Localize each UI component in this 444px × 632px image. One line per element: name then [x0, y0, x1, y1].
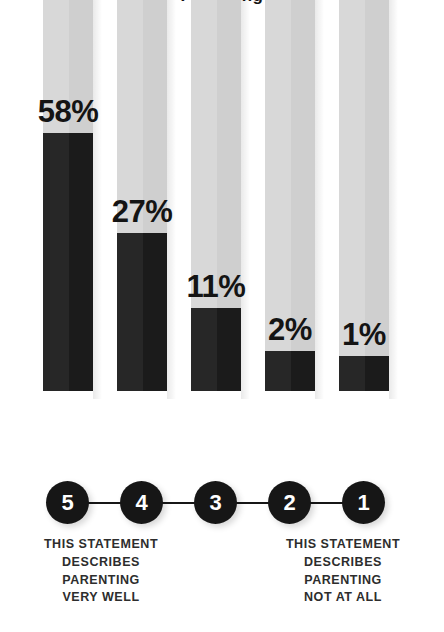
bar-value-label-1: 1%: [325, 319, 403, 350]
caption-left-line-2: DESCRIBES: [6, 554, 196, 572]
caption-right-line-3: PARENTING: [248, 572, 438, 590]
category-chip-4[interactable]: 4: [120, 481, 163, 524]
caption-right-line-4: NOT AT ALL: [248, 589, 438, 607]
caption-right-line-2: DESCRIBES: [248, 554, 438, 572]
bar-fill-4[interactable]: [117, 233, 167, 391]
category-chip-5[interactable]: 5: [46, 481, 89, 524]
plot-area: 58% 27% 11% 2% 1% 5 4 3 2: [0, 0, 444, 520]
axis-caption-right: THIS STATEMENT DESCRIBES PARENTING NOT A…: [248, 536, 438, 607]
caption-right-line-1: THIS STATEMENT: [248, 536, 438, 554]
bar-fill-3[interactable]: [191, 308, 241, 391]
caption-left-line-1: THIS STATEMENT: [6, 536, 196, 554]
bar-value-label-4: 27%: [103, 196, 181, 227]
bar-value-label-3: 11%: [177, 271, 255, 302]
bar-value-label-2: 2%: [251, 314, 329, 345]
bar-fill-5[interactable]: [43, 133, 93, 391]
bar-fill-1[interactable]: [339, 356, 389, 391]
chart-canvas: Parenting 58% 27% 11% 2%: [0, 0, 444, 632]
bar-value-label-5: 58%: [29, 96, 107, 127]
category-chip-3[interactable]: 3: [194, 481, 237, 524]
category-chip-1[interactable]: 1: [342, 481, 385, 524]
caption-left-line-3: PARENTING: [6, 572, 196, 590]
caption-left-line-4: VERY WELL: [6, 589, 196, 607]
category-chip-2[interactable]: 2: [268, 481, 311, 524]
bar-fill-2[interactable]: [265, 351, 315, 391]
axis-caption-left: THIS STATEMENT DESCRIBES PARENTING VERY …: [6, 536, 196, 607]
